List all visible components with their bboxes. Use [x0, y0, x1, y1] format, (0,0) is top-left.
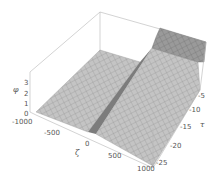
- z-tick: 2: [24, 90, 28, 98]
- y-axis-label: τ: [200, 120, 205, 129]
- y-tick: -20: [170, 142, 181, 150]
- x-tick: 0: [85, 140, 89, 148]
- z-tick: 3: [24, 79, 28, 87]
- z-tick: 1: [24, 100, 28, 108]
- z-tick: 0: [24, 110, 28, 118]
- x-tick: 1000: [137, 165, 155, 173]
- x-axis-label: ζ: [75, 148, 80, 157]
- z-axis-label: φ: [13, 85, 19, 94]
- z-axis: 3 2 1 0 φ: [13, 79, 28, 118]
- y-tick: -5: [198, 92, 205, 100]
- y-tick: -15: [180, 123, 191, 131]
- y-tick: -25: [156, 159, 167, 167]
- x-tick: -500: [44, 129, 60, 137]
- x-tick: -1000: [12, 118, 32, 126]
- y-tick: -10: [189, 106, 200, 114]
- x-tick: 500: [108, 152, 121, 160]
- surface-plot: 3 2 1 0 φ -1000 -500 0 500 1000 ζ -5 -10…: [0, 0, 216, 183]
